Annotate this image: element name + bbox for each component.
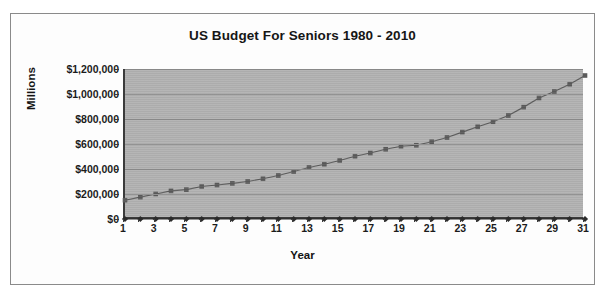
x-axis-title: Year [11,249,594,261]
y-axis-tick [115,119,119,120]
y-axis-tick [115,219,119,220]
plot-area [123,69,583,219]
data-point-marker [491,119,496,124]
y-axis-tick [115,194,119,195]
y-axis-tick-label: $1,200,000 [66,63,119,75]
data-point-marker [475,124,480,129]
gridline [125,169,583,170]
data-point-marker [353,154,358,159]
x-axis-tick-label: 13 [301,222,313,234]
gridline [125,69,583,70]
chart-title: US Budget For Seniors 1980 - 2010 [11,28,594,43]
x-axis-tick-label: 9 [243,222,249,234]
data-point-marker [368,151,373,156]
x-axis-tick-label: 5 [181,222,187,234]
x-axis-tick-label: 11 [271,222,282,234]
y-axis-tick-label: $200,000 [75,188,119,200]
y-axis-tick [115,69,119,70]
data-point-marker [138,195,143,200]
x-axis-tick-label: 7 [212,222,218,234]
data-point-marker [245,179,250,184]
data-point-marker [460,130,465,135]
data-point-marker [583,73,588,78]
chart-figure: US Budget For Seniors 1980 - 2010 Millio… [10,13,595,285]
x-axis-tick-label: 29 [546,222,558,234]
data-point-marker [337,158,342,163]
data-point-marker [506,113,511,118]
y-axis-tick [115,94,119,95]
x-axis-tick-label: 25 [485,222,497,234]
x-axis-tick-label: 27 [516,222,528,234]
data-point-marker [383,147,388,152]
gridline [125,94,583,95]
data-point-marker [261,176,266,181]
data-point-marker [322,162,327,167]
x-axis-tick-label: 15 [332,222,344,234]
y-axis-tick-labels: $1,200,000$1,000,000$800,000$600,000$400… [11,69,119,219]
gridline [125,144,583,145]
y-axis-tick [115,144,119,145]
x-axis-tick-label: 17 [362,222,374,234]
data-point-marker [521,105,526,110]
data-point-marker [567,82,572,87]
data-point-marker [169,189,174,194]
data-point-marker [445,135,450,140]
x-axis-tick-label: 3 [151,222,157,234]
data-point-marker [230,181,235,186]
data-point-marker [199,184,204,189]
x-axis-tick-label: 1 [120,222,126,234]
gridline [125,194,583,195]
x-axis-tick-label: 19 [393,222,405,234]
y-axis-tick-label: $600,000 [75,138,119,150]
data-point-marker [537,96,542,101]
y-axis-tick [115,169,119,170]
y-axis-tick-label: $400,000 [75,163,119,175]
x-axis-tick-label: 21 [424,222,436,234]
x-axis-tick-labels: 135791113151719212325272931 [123,222,585,240]
data-point-marker [123,198,128,203]
data-point-marker [215,183,220,188]
x-axis-tick-label: 23 [454,222,466,234]
data-point-marker [276,173,281,178]
data-point-marker [184,187,189,192]
x-axis-tick-label: 31 [577,222,589,234]
y-axis-tick-label: $800,000 [75,113,119,125]
gridline [125,119,583,120]
y-axis-tick-label: $1,000,000 [66,88,119,100]
